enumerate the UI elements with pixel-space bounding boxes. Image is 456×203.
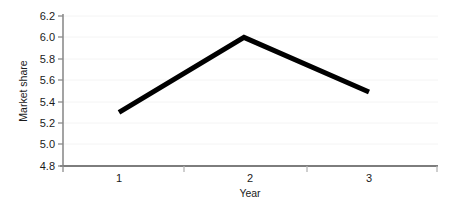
y-axis-title: Market share: [17, 60, 29, 121]
x-tick-label: 3: [366, 172, 372, 184]
x-tick-label: 2: [247, 172, 253, 184]
x-axis-title: Year: [239, 187, 261, 199]
y-tick-label: 5.2: [40, 117, 55, 129]
x-tick-label: 1: [116, 172, 122, 184]
y-tick-label: 5.4: [40, 96, 55, 108]
y-tick-label: 6.2: [40, 10, 55, 22]
line-chart: 6.2 6.0 5.8 5.6 5.4 5.2 5.0 4.8 1 2 3 Ma…: [0, 0, 456, 203]
y-tick-label: 5.6: [40, 74, 55, 86]
y-tick-label: 6.0: [40, 31, 55, 43]
chart-canvas: 6.2 6.0 5.8 5.6 5.4 5.2 5.0 4.8 1 2 3 Ma…: [0, 0, 456, 203]
y-tick-label: 5.8: [40, 53, 55, 65]
y-tick-label: 4.8: [40, 160, 55, 172]
y-tick-label: 5.0: [40, 138, 55, 150]
